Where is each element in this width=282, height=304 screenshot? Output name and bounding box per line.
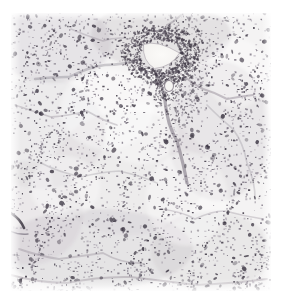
tissue-field <box>11 13 271 291</box>
micrograph-figure: H&E Histological section <box>0 0 282 304</box>
tissue-canvas <box>11 13 271 291</box>
